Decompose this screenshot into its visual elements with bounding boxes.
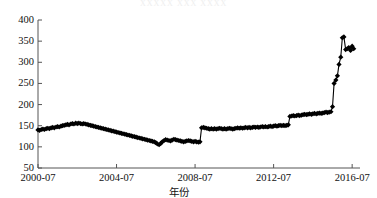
x-tick-label: 2012-07 xyxy=(256,172,291,183)
series-markers xyxy=(35,34,356,147)
axis-lines xyxy=(38,20,360,168)
x-axis-title: 年份 xyxy=(0,184,377,198)
x-tick-label: 2016-07 xyxy=(335,172,370,183)
x-axis-title-text: 年份 xyxy=(169,184,189,198)
chart-container: XXXXX XXX XXXX 40035030025020015010050 2… xyxy=(0,0,377,198)
series-line xyxy=(38,37,354,145)
x-tick-label: 2000-07 xyxy=(21,172,56,183)
x-axis-ticks xyxy=(38,164,352,168)
y-axis-ticks xyxy=(38,20,42,168)
x-tick-label: 2008-07 xyxy=(178,172,213,183)
x-tick-label: 2004-07 xyxy=(99,172,134,183)
plot-area xyxy=(0,0,377,198)
